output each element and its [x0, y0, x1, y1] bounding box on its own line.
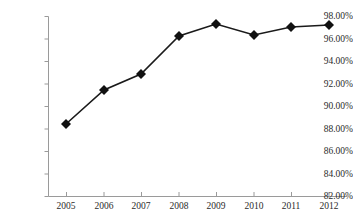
x-axis-label-2005: 2005: [46, 201, 86, 212]
line-chart: 98.00% 96.00% 94.00% 92.00% 90.00% 88.00…: [0, 0, 353, 220]
x-axis-label-2008: 2008: [159, 201, 199, 212]
x-axis-label-2009: 2009: [196, 201, 236, 212]
x-axis-label-2006: 2006: [84, 201, 124, 212]
x-axis-label-2012: 2012: [309, 201, 349, 212]
x-axis-label-2007: 2007: [121, 201, 161, 212]
x-axis-labels: 2005 2006 2007 2008 2009 2010 2011 2012: [0, 0, 353, 220]
x-axis-label-2010: 2010: [234, 201, 274, 212]
x-axis-label-2011: 2011: [271, 201, 311, 212]
